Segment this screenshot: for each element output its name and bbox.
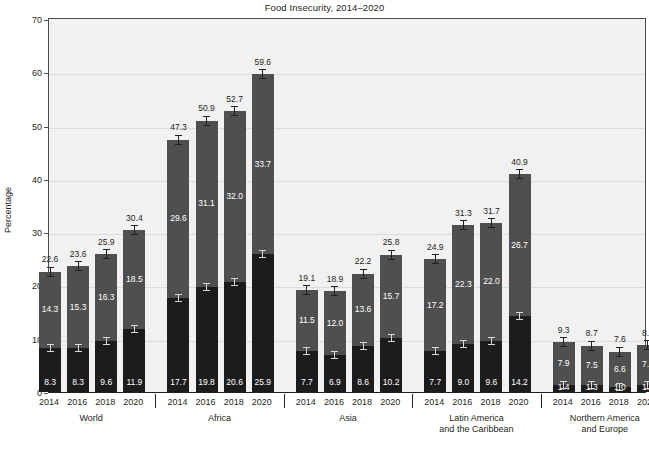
bar-northern-america-and-europe-2018[interactable]: 6.61.07.6 [609, 352, 631, 392]
error-bar-total [262, 69, 263, 79]
value-label-moderate: 6.6 [609, 365, 631, 374]
error-bar-severe [134, 325, 135, 333]
bar-africa-2018[interactable]: 32.020.652.7 [224, 111, 246, 392]
bar-asia-2020[interactable]: 15.710.225.8 [380, 255, 402, 392]
group-separator [412, 394, 413, 408]
error-bar-total [363, 269, 364, 279]
bar-asia-2018[interactable]: 13.68.622.2 [352, 274, 374, 392]
bar-northern-america-and-europe-2020[interactable]: 7.41.48.8 [637, 345, 649, 392]
x-tick-label: 2020 [373, 397, 407, 407]
bar-latin-america-and-the-caribbean-2018[interactable]: 22.09.631.7 [480, 223, 502, 392]
bar-africa-2016[interactable]: 31.119.850.9 [196, 121, 218, 392]
value-label-moderate: 33.7 [252, 160, 274, 169]
group-label-line: Northern America [540, 413, 649, 424]
value-label-moderate: 18.5 [123, 275, 145, 284]
error-bar-total [619, 347, 620, 357]
value-label-moderate: 7.9 [553, 359, 575, 368]
error-bar-severe [435, 347, 436, 355]
value-label-severe: 14.2 [509, 378, 531, 387]
bar-africa-2020[interactable]: 33.725.959.6 [252, 74, 274, 392]
bar-latin-america-and-the-caribbean-2016[interactable]: 22.39.031.3 [452, 225, 474, 392]
y-tick-label: 20 [2, 281, 42, 291]
group-label-line: Africa [155, 413, 285, 424]
bar-world-2014[interactable]: 14.38.322.6 [39, 272, 61, 392]
group-label-line: and the Caribbean [411, 424, 541, 435]
group-label: Latin Americaand the Caribbean [411, 413, 541, 435]
value-label-severe: 6.9 [324, 378, 346, 387]
group-label: Africa [155, 413, 285, 424]
y-tick-label: 70 [2, 15, 42, 25]
value-label-severe: 11.9 [123, 378, 145, 387]
bar-africa-2014[interactable]: 29.617.747.3 [167, 140, 189, 392]
group-label-line: Asia [283, 413, 413, 424]
error-bar-total [206, 116, 207, 126]
error-bar-total [435, 254, 436, 264]
value-label-total: 59.6 [246, 58, 280, 67]
error-bar-severe [50, 344, 51, 352]
bar-latin-america-and-the-caribbean-2014[interactable]: 17.27.724.9 [424, 259, 446, 392]
value-label-total: 25.9 [89, 238, 123, 247]
value-label-severe: 25.9 [252, 378, 274, 387]
value-label-severe: 8.3 [39, 378, 61, 387]
bar-asia-2016[interactable]: 12.06.918.9 [324, 291, 346, 392]
value-label-moderate: 15.7 [380, 292, 402, 301]
error-bar-severe [363, 342, 364, 350]
error-bar-total [519, 169, 520, 179]
bar-segment-severe [252, 254, 274, 392]
gridline [49, 128, 645, 129]
group-separator [284, 394, 285, 408]
value-label-severe: 8.3 [67, 378, 89, 387]
group-label-line: and Europe [540, 424, 649, 435]
bar-asia-2014[interactable]: 11.57.719.1 [296, 290, 318, 392]
group-separator [541, 394, 542, 408]
group-label-line: Latin America [411, 413, 541, 424]
error-bar-total [78, 261, 79, 271]
value-label-moderate: 15.3 [67, 303, 89, 312]
value-label-severe: 19.8 [196, 378, 218, 387]
value-label-moderate: 7.5 [581, 361, 603, 370]
value-label-severe: 8.6 [352, 378, 374, 387]
bar-world-2016[interactable]: 15.38.323.6 [67, 266, 89, 392]
error-bar-severe [334, 351, 335, 359]
bar-northern-america-and-europe-2016[interactable]: 7.51.38.7 [581, 346, 603, 392]
value-label-moderate: 22.0 [480, 277, 502, 286]
y-tick-label: 10 [2, 335, 42, 345]
value-label-moderate: 26.7 [509, 241, 531, 250]
error-bar-total [463, 220, 464, 230]
bar-northern-america-and-europe-2014[interactable]: 7.91.49.3 [553, 342, 575, 392]
chart-figure: Food Insecurity, 2014–2020 Percentage Mo… [0, 0, 649, 454]
y-tick-label: 60 [2, 68, 42, 78]
value-label-severe: 7.7 [424, 378, 446, 387]
bar-world-2018[interactable]: 16.39.625.9 [95, 254, 117, 392]
bar-world-2020[interactable]: 18.511.930.4 [123, 230, 145, 392]
x-tick-label: 2020 [630, 397, 649, 407]
x-tick-label: 2020 [502, 397, 536, 407]
error-bar-severe [619, 383, 620, 391]
value-label-severe: 17.7 [167, 378, 189, 387]
page-title: Food Insecurity, 2014–2020 [0, 2, 649, 13]
bar-latin-america-and-the-caribbean-2020[interactable]: 26.714.240.9 [509, 174, 531, 392]
value-label-total: 8.8 [631, 329, 649, 338]
error-bar-severe [234, 278, 235, 286]
error-bar-severe [78, 344, 79, 352]
group-label: Asia [283, 413, 413, 424]
value-label-total: 40.9 [503, 158, 537, 167]
error-bar-severe [306, 347, 307, 355]
error-bar-severe [563, 381, 564, 389]
bar-segment-severe [224, 282, 246, 392]
value-label-severe: 10.2 [380, 378, 402, 387]
value-label-moderate: 31.1 [196, 199, 218, 208]
value-label-total: 24.9 [418, 243, 452, 252]
x-axis: 2014201620182020World2014201620182020Afr… [48, 393, 646, 454]
x-tick-label: 2020 [116, 397, 150, 407]
value-label-moderate: 16.3 [95, 293, 117, 302]
error-bar-severe [206, 283, 207, 291]
error-bar-severe [463, 340, 464, 348]
error-bar-severe [106, 337, 107, 345]
value-label-total: 50.9 [190, 104, 224, 113]
value-label-moderate: 14.3 [39, 305, 61, 314]
error-bar-total [106, 249, 107, 259]
error-bar-total [50, 267, 51, 277]
value-label-moderate: 17.2 [424, 301, 446, 310]
value-label-total: 25.8 [374, 238, 408, 247]
